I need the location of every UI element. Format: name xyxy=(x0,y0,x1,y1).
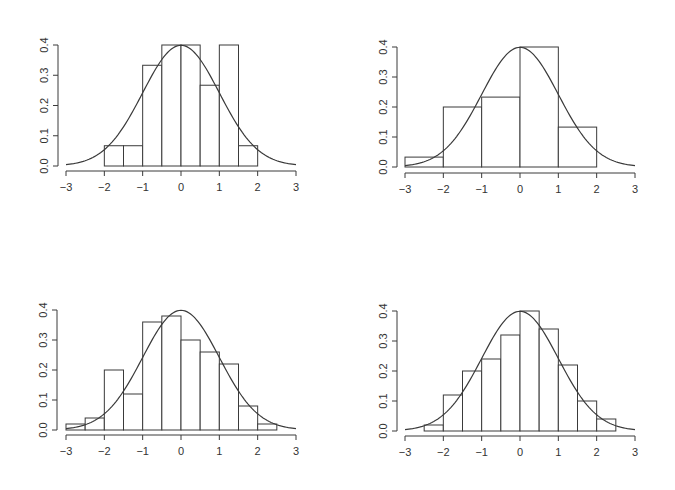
x-tick-label: −1 xyxy=(475,446,488,458)
y-tick-label: 0.4 xyxy=(37,302,49,317)
histogram-bar xyxy=(539,329,558,431)
y-tick-label: 0.4 xyxy=(38,37,50,52)
x-tick-label: −3 xyxy=(60,445,73,457)
histogram-bar xyxy=(239,146,258,166)
x-tick-label: 1 xyxy=(216,445,222,457)
y-tick-label: 0.0 xyxy=(377,159,389,174)
x-tick-label: 3 xyxy=(293,181,299,193)
y-tick-label: 0.3 xyxy=(377,333,389,348)
histogram-bar xyxy=(104,370,123,430)
y-tick-label: 0.1 xyxy=(377,129,389,144)
y-tick-label: 0.3 xyxy=(38,68,50,83)
x-axis: −3−2−10123 xyxy=(399,173,638,195)
x-tick-label: 3 xyxy=(632,446,638,458)
figure-canvas: 0.00.10.20.30.4−3−2−10123 0.00.10.20.30.… xyxy=(0,0,675,490)
x-tick-label: −1 xyxy=(136,445,149,457)
histogram-bar xyxy=(558,365,577,431)
x-tick-label: −3 xyxy=(60,181,73,193)
x-tick-label: 1 xyxy=(555,446,561,458)
y-tick-label: 0.3 xyxy=(37,332,49,347)
x-axis: −3−2−10123 xyxy=(399,436,638,458)
histogram-bar xyxy=(162,45,181,166)
histogram-bar xyxy=(162,316,181,430)
histogram-grid: 0.00.10.20.30.4−3−2−10123 0.00.10.20.30.… xyxy=(0,0,675,490)
y-tick-label: 0.0 xyxy=(38,158,50,173)
histogram-bar xyxy=(143,65,162,166)
x-tick-label: 0 xyxy=(178,445,184,457)
y-tick-label: 0.2 xyxy=(37,362,49,377)
histogram-bar xyxy=(443,107,481,167)
y-tick-label: 0.4 xyxy=(377,303,389,318)
x-tick-label: 2 xyxy=(594,183,600,195)
x-tick-label: 3 xyxy=(632,183,638,195)
histogram-bar xyxy=(219,364,238,430)
x-tick-label: −1 xyxy=(136,181,149,193)
y-axis: 0.00.10.20.30.4 xyxy=(377,39,397,174)
histogram-panel-top-right: 0.00.10.20.30.4−3−2−10123 xyxy=(377,39,638,195)
x-axis: −3−2−10123 xyxy=(60,435,299,457)
x-tick-label: 3 xyxy=(293,445,299,457)
histogram-bar xyxy=(143,322,162,430)
histogram-bar xyxy=(463,371,482,431)
y-tick-label: 0.2 xyxy=(38,98,50,113)
histogram-bar xyxy=(181,45,200,166)
x-tick-label: −2 xyxy=(437,183,450,195)
histogram-bar xyxy=(424,425,443,431)
x-tick-label: 2 xyxy=(255,445,261,457)
x-tick-label: 2 xyxy=(255,181,261,193)
histogram-bar xyxy=(482,359,501,431)
x-tick-label: 0 xyxy=(517,446,523,458)
y-tick-label: 0.4 xyxy=(377,39,389,54)
x-tick-label: 0 xyxy=(517,183,523,195)
y-tick-label: 0.2 xyxy=(377,363,389,378)
x-tick-label: −2 xyxy=(98,445,111,457)
y-tick-label: 0.0 xyxy=(37,422,49,437)
x-tick-label: −3 xyxy=(399,446,412,458)
y-axis: 0.00.10.20.30.4 xyxy=(37,302,57,437)
histogram-bar xyxy=(181,340,200,430)
histogram-bar xyxy=(258,424,277,430)
histogram-panel-top-left: 0.00.10.20.30.4−3−2−10123 xyxy=(38,37,299,193)
x-tick-label: −2 xyxy=(98,181,111,193)
histogram-bar xyxy=(124,394,143,430)
histogram-bar xyxy=(219,45,238,166)
x-tick-label: −1 xyxy=(475,183,488,195)
x-axis: −3−2−10123 xyxy=(60,171,299,193)
x-tick-label: 2 xyxy=(594,446,600,458)
y-tick-label: 0.1 xyxy=(38,128,50,143)
x-tick-label: 1 xyxy=(216,181,222,193)
y-tick-label: 0.2 xyxy=(377,99,389,114)
histogram-panel-bottom-right: 0.00.10.20.30.4−3−2−10123 xyxy=(377,303,638,458)
histogram-bar xyxy=(200,352,219,430)
histogram-bar xyxy=(239,406,258,430)
y-axis: 0.00.10.20.30.4 xyxy=(377,303,397,438)
x-tick-label: 0 xyxy=(178,181,184,193)
histogram-bar xyxy=(520,311,539,431)
histogram-panel-bottom-left: 0.00.10.20.30.4−3−2−10123 xyxy=(37,302,299,457)
y-tick-label: 0.0 xyxy=(377,423,389,438)
y-tick-label: 0.1 xyxy=(377,393,389,408)
histogram-bar xyxy=(482,97,520,167)
histogram-bar xyxy=(200,85,219,166)
histogram-bar xyxy=(558,127,596,167)
x-tick-label: −2 xyxy=(437,446,450,458)
histogram-bar xyxy=(520,47,558,167)
histogram-bar xyxy=(124,146,143,166)
x-tick-label: −3 xyxy=(399,183,412,195)
x-tick-label: 1 xyxy=(555,183,561,195)
histogram-bar xyxy=(501,335,520,431)
histogram-bar xyxy=(104,146,123,166)
y-tick-label: 0.1 xyxy=(37,392,49,407)
y-axis: 0.00.10.20.30.4 xyxy=(38,37,58,173)
y-tick-label: 0.3 xyxy=(377,69,389,84)
